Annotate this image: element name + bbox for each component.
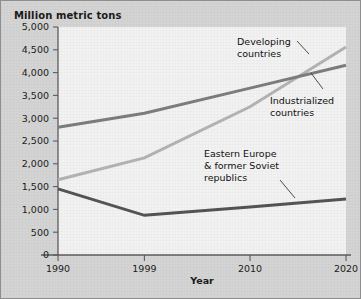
chart-figure: Million metric tons 05001,0001,5002,0002…	[0, 0, 361, 299]
y-axis-tick-label: 3,500	[22, 90, 49, 101]
y-axis-tick-label: 0	[43, 249, 49, 260]
annotation-developing-line-1: Developing	[237, 36, 291, 47]
annotation-industrialized-line-2: countries	[270, 107, 314, 118]
annotation-industrialized-line-1: Industrialized	[270, 95, 334, 106]
x-axis-ticks: 1990199920102020	[46, 255, 358, 274]
y-axis-tick-label: 4,000	[22, 67, 49, 78]
x-axis-tick-label: 1999	[132, 263, 156, 274]
x-axis-tick-label: 1990	[46, 263, 70, 274]
y-axis-tick-label: 1,000	[22, 204, 49, 215]
x-axis-tick-label: 2020	[334, 263, 358, 274]
annotation-eastern-europe-line-3: republics	[204, 172, 247, 183]
y-axis-tick-label: 5,000	[22, 21, 49, 32]
x-axis-title: Year	[189, 275, 214, 286]
y-axis-ticks: 05001,0001,5002,0002,5003,0003,5004,0004…	[22, 21, 58, 260]
line-chart-plot: 05001,0001,5002,0002,5003,0003,5004,0004…	[1, 1, 361, 299]
annotation-eastern-europe-line-2: & former Soviet	[204, 160, 279, 171]
y-axis-tick-label: 4,500	[22, 44, 49, 55]
annotation-eastern-europe-line-1: Eastern Europe	[204, 148, 277, 159]
y-axis-tick-label: 2,000	[22, 158, 49, 169]
y-axis-tick-label: 500	[31, 227, 49, 238]
y-axis-tick-label: 1,500	[22, 181, 49, 192]
x-axis-tick-label: 2010	[238, 263, 262, 274]
y-axis-tick-label: 3,000	[22, 113, 49, 124]
y-axis-tick-label: 2,500	[22, 135, 49, 146]
plot-area-background	[58, 27, 346, 255]
annotation-developing-line-2: countries	[237, 48, 281, 59]
